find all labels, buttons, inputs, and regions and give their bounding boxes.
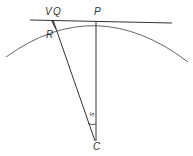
- label-c: C: [93, 141, 101, 152]
- label-q: Q: [53, 6, 61, 17]
- label-angle-s: s: [87, 111, 97, 117]
- line-vc: [53, 20, 95, 141]
- geometry-diagram: V Q P R C s: [0, 0, 193, 156]
- label-v: V: [45, 6, 53, 17]
- label-r: R: [46, 29, 53, 40]
- tangent-line: [30, 20, 172, 23]
- label-p: P: [94, 6, 101, 17]
- circle-arc: [6, 26, 188, 62]
